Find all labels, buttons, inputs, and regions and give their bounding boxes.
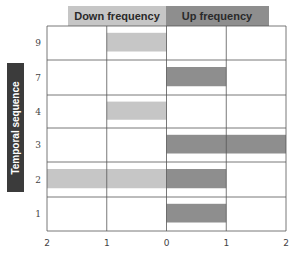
bar-up-frequency-2 [167, 169, 227, 188]
y-tick-label: 3 [35, 140, 41, 150]
bar-down-frequency-4 [107, 102, 167, 120]
bar-down-frequency-9 [107, 33, 167, 52]
y-tick-label: 4 [35, 107, 41, 117]
legend: Down frequency Up frequency [68, 6, 269, 26]
x-tick-labels: 21012 [44, 238, 289, 248]
y-tick-label: 1 [35, 209, 41, 219]
y-axis-title: Temporal sequence [7, 63, 24, 192]
bar-up-frequency-1 [167, 204, 227, 223]
y-tick-label: 2 [35, 175, 41, 185]
legend-up-frequency-label: Up frequency [182, 10, 253, 22]
x-tick-label: 2 [44, 238, 50, 248]
y-tick-labels: 974321 [35, 38, 41, 219]
diverging-bar-chart: Down frequency Up frequency Temporal seq… [0, 0, 296, 258]
y-tick-label: 9 [35, 38, 41, 48]
y-axis-title-text: Temporal sequence [10, 81, 21, 175]
bar-up-frequency-7 [167, 67, 227, 86]
x-tick-label: 2 [283, 238, 289, 248]
y-tick-label: 7 [35, 73, 41, 83]
x-tick-label: 0 [164, 238, 170, 248]
x-tick-label: 1 [104, 238, 110, 248]
x-tick-label: 1 [223, 238, 229, 248]
legend-down-frequency-label: Down frequency [74, 10, 160, 22]
grid [47, 26, 286, 231]
